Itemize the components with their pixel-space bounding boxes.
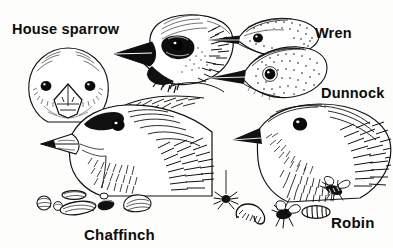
chaffinch-seeds-illustration bbox=[30, 186, 155, 220]
dunnock-profile-illustration bbox=[206, 44, 328, 104]
chaffinch-profile-illustration bbox=[40, 100, 215, 200]
label-house-sparrow: House sparrow bbox=[12, 22, 119, 37]
label-dunnock: Dunnock bbox=[321, 86, 384, 101]
label-wren: Wren bbox=[315, 26, 352, 41]
label-robin: Robin bbox=[331, 215, 375, 230]
label-chaffinch: Chaffinch bbox=[84, 227, 155, 242]
illustration-plate: House sparrow Wren Dunnock Chaffinch Rob… bbox=[0, 0, 393, 248]
